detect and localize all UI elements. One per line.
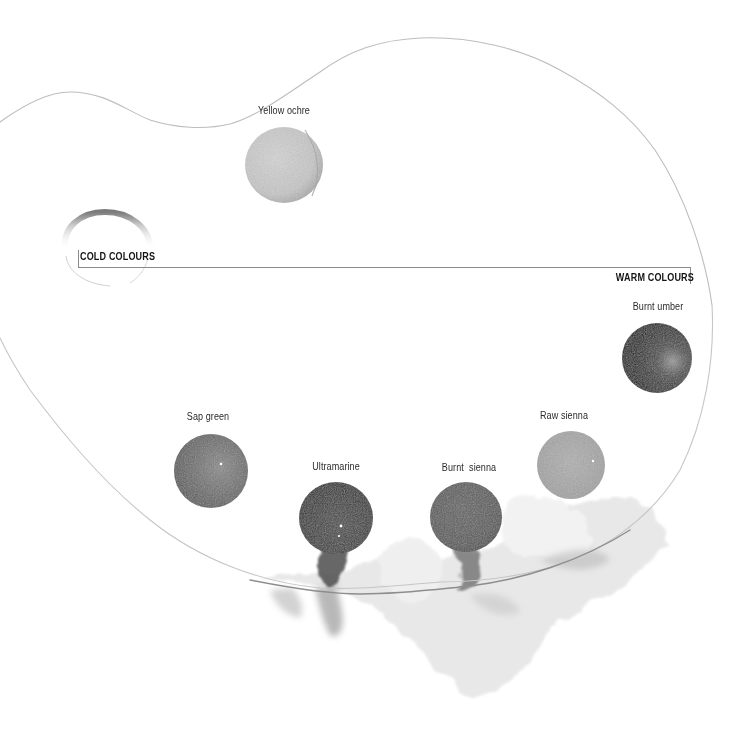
swatch-label-burnt-sienna: Burnt sienna [430,461,507,473]
warm-colours-heading: WARM COLOURS [616,271,688,283]
paint-wells [174,127,692,554]
swatch-label-yellow-ochre: Yellow ochre [250,104,319,116]
palette-artwork [0,0,737,752]
bracket-cold-tick [78,250,79,267]
cold-warm-divider [78,267,690,268]
cold-colours-heading: COLD COLOURS [80,250,155,262]
swatch-sap-green [174,434,248,508]
palette-illustration: Yellow ochre Sap green Ultramarine Burnt… [0,0,737,752]
swatch-burnt-sienna [430,482,502,552]
swatch-raw-sienna [537,431,605,499]
swatch-burnt-umber [622,323,692,393]
swatch-label-raw-sienna: Raw sienna [530,409,599,421]
swatch-yellow-ochre [245,127,323,203]
swatch-label-sap-green: Sap green [174,410,243,422]
thumb-hole [65,212,150,286]
swatch-ultramarine [299,482,373,554]
swatch-label-burnt-umber: Burnt umber [620,300,696,312]
swatch-label-ultramarine: Ultramarine [302,460,371,472]
